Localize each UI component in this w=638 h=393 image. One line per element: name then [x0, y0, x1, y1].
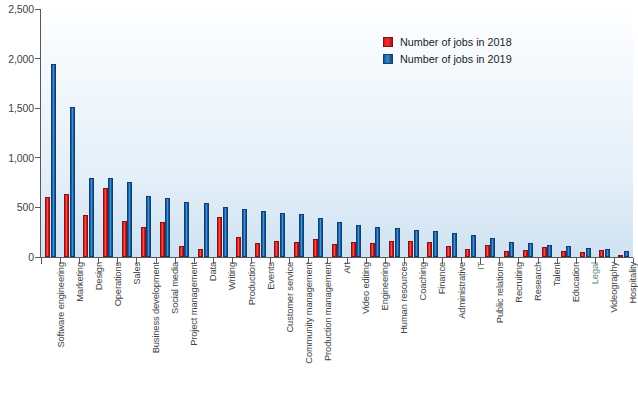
x-axis-label: Data	[207, 262, 218, 281]
y-axis-tick-label: 1,500	[0, 102, 40, 114]
x-axis-label: Design	[93, 262, 104, 290]
x-axis-tick-mark	[461, 258, 462, 264]
y-axis-tick-label: 1,000	[0, 152, 40, 164]
x-axis-tick-mark	[41, 258, 42, 264]
x-axis-tick-mark	[347, 258, 348, 264]
x-axis-tick-mark	[499, 258, 500, 264]
x-axis-tick-mark	[156, 258, 157, 264]
bar-2018	[599, 250, 604, 257]
bar-2019	[280, 213, 285, 257]
bar-2019	[471, 235, 476, 257]
x-axis-tick-mark	[576, 258, 577, 264]
x-axis-label: Project management	[188, 262, 199, 346]
x-axis-tick-mark	[175, 258, 176, 264]
x-axis-label: Community management	[303, 262, 314, 364]
bottom-strip	[0, 386, 638, 393]
bar-2019	[452, 233, 457, 257]
bar-2018	[465, 249, 470, 257]
bar-2019	[108, 178, 113, 257]
x-axis-tick-mark	[98, 258, 99, 264]
bar-2019	[337, 222, 342, 257]
bar-2019	[184, 202, 189, 257]
y-axis-tick-mark	[35, 157, 41, 158]
x-axis-label: Administrative	[456, 262, 467, 319]
bar-2019	[490, 238, 495, 257]
bar-2019	[165, 198, 170, 257]
x-axis-tick-mark	[194, 258, 195, 264]
x-axis-tick-mark	[117, 258, 118, 264]
bar-2019	[242, 209, 247, 257]
x-axis-label: Social media	[169, 262, 180, 314]
bar-2019	[586, 248, 591, 257]
bar-2018	[332, 244, 337, 257]
x-axis-label: Public relations	[494, 262, 505, 323]
bar-2018	[122, 221, 127, 257]
bar-2018	[580, 252, 585, 257]
x-axis-tick-mark	[79, 258, 80, 264]
bar-2019	[395, 228, 400, 257]
x-axis-label: Talent	[551, 262, 562, 286]
bar-2019	[261, 211, 266, 257]
bar-2019	[375, 227, 380, 257]
x-axis-label: Coaching	[417, 262, 428, 300]
bar-2018	[83, 215, 88, 257]
x-axis-label: Customer service	[284, 262, 295, 333]
x-axis-tick-mark	[518, 258, 519, 264]
legend-swatch-red	[383, 37, 393, 47]
legend-label: Number of jobs in 2019	[400, 53, 512, 65]
bar-2019	[566, 246, 571, 257]
bar-2019	[51, 64, 56, 257]
bar-2019	[509, 242, 514, 257]
x-axis-label: Software engineering	[55, 262, 66, 348]
bar-2018	[198, 249, 203, 257]
bar-2018	[103, 188, 108, 257]
bar-2019	[547, 245, 552, 257]
y-axis-tick-label: 0	[0, 251, 40, 263]
y-axis-tick-mark	[35, 58, 41, 59]
x-axis-tick-mark	[442, 258, 443, 264]
x-axis-label: Business development	[150, 262, 161, 353]
x-axis-label: Research	[532, 262, 543, 301]
bar-2018	[389, 241, 394, 257]
x-axis-label: Production	[246, 262, 257, 305]
y-axis-tick-mark	[35, 207, 41, 208]
x-axis-label: Recruiting	[513, 262, 524, 303]
bar-2018	[294, 242, 299, 257]
x-axis-label: Operations	[112, 262, 123, 306]
x-axis-label: Video editing	[360, 262, 371, 314]
x-axis-label: Hospitality	[627, 262, 638, 304]
bar-2018	[504, 251, 509, 257]
bar-2018	[523, 250, 528, 257]
y-axis-line	[40, 9, 41, 258]
bar-2019	[299, 214, 304, 257]
legend-swatch-blue	[383, 54, 393, 64]
x-axis-label: Videography	[608, 262, 619, 313]
bar-2018	[236, 237, 241, 257]
chart-legend: Number of jobs in 2018Number of jobs in …	[383, 36, 512, 70]
bar-2019	[433, 231, 438, 257]
bar-2019	[70, 107, 75, 257]
x-axis-label: Sales	[131, 262, 142, 285]
x-axis-tick-mark	[614, 258, 615, 264]
x-axis-label: Production management	[322, 262, 333, 361]
bar-2019	[605, 249, 610, 257]
bar-2018	[45, 197, 50, 258]
bar-2018	[313, 239, 318, 257]
x-axis-tick-mark	[270, 258, 271, 264]
y-axis-tick-mark	[35, 108, 41, 109]
x-axis-tick-mark	[213, 258, 214, 264]
bar-2019	[624, 251, 629, 257]
bar-2018	[408, 241, 413, 257]
bar-2018	[485, 245, 490, 257]
x-axis-label: Human resources	[398, 262, 409, 334]
x-axis-tick-mark	[385, 258, 386, 264]
bar-2018	[217, 217, 222, 257]
x-axis-label: Finance	[436, 262, 447, 294]
bar-2019	[146, 196, 151, 258]
bar-2018	[160, 222, 165, 257]
x-axis-tick-mark	[595, 258, 596, 264]
x-axis-tick-mark	[538, 258, 539, 264]
x-axis-tick-mark	[327, 258, 328, 264]
x-axis-tick-mark	[232, 258, 233, 264]
bar-2018	[141, 227, 146, 257]
